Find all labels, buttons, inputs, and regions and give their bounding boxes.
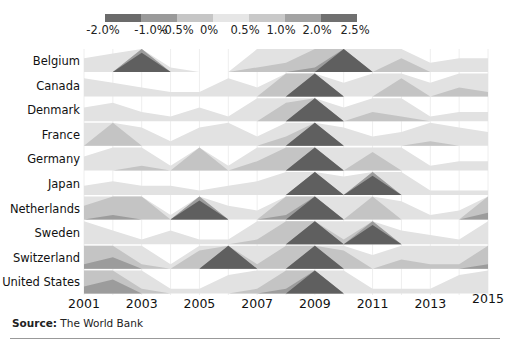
x-tick-label: 2015 xyxy=(472,291,504,306)
horizon-row xyxy=(84,246,488,269)
horizon-row xyxy=(84,98,488,121)
horizon-row xyxy=(84,172,488,195)
horizon-row xyxy=(84,74,488,97)
source-label: Source: xyxy=(12,317,57,329)
x-tick-label: 2009 xyxy=(299,296,331,311)
x-tick-label: 2013 xyxy=(414,296,446,311)
bottom-divider xyxy=(10,338,500,339)
horizon-row xyxy=(84,49,488,72)
horizon-row xyxy=(84,123,488,146)
horizon-row xyxy=(84,221,488,244)
x-tick-label: 2003 xyxy=(126,296,158,311)
horizon-row xyxy=(84,270,488,293)
horizon-row xyxy=(84,197,488,220)
x-tick-label: 2005 xyxy=(184,296,216,311)
horizon-band xyxy=(84,172,488,195)
x-tick-label: 2007 xyxy=(241,296,273,311)
source-note: Source: The World Bank xyxy=(12,317,143,329)
x-tick-label: 2011 xyxy=(357,296,389,311)
source-text: The World Bank xyxy=(57,317,143,329)
x-tick-label: 2001 xyxy=(68,296,100,311)
horizon-row xyxy=(84,147,488,170)
horizon-plot xyxy=(0,0,514,345)
